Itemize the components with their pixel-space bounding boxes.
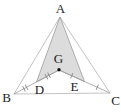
shaded-region-ADGE [37,17,85,82]
point-G-dot [57,68,60,71]
label-B: B [2,90,11,105]
label-E: E [71,79,79,94]
geometry-figure: A B C D E G [0,0,121,112]
label-C: C [111,93,120,108]
label-G: G [54,51,63,66]
label-D: D [35,82,44,97]
label-A: A [56,1,66,16]
